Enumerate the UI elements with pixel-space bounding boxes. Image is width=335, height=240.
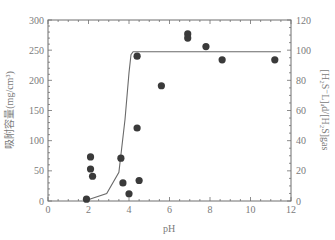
y2-tick-label: 60 (296, 105, 306, 116)
y2-tick-label: 0 (296, 196, 301, 207)
plot-frame (48, 20, 291, 201)
chart: 0246810120501001502002503000204060801001… (0, 0, 335, 240)
y-tick-label: 50 (34, 165, 44, 176)
data-point (184, 35, 191, 42)
x-axis-title: pH (163, 223, 175, 234)
y2-axis-title: [H₂S⁻L]ₐd/[H₂S]gas (320, 70, 331, 151)
x-tick-label: 2 (86, 204, 91, 215)
y2-tick-label: 40 (296, 135, 306, 146)
data-point (125, 190, 132, 197)
data-points (83, 30, 279, 203)
data-point (219, 56, 226, 63)
data-point (271, 56, 278, 63)
model-curve (87, 52, 281, 201)
data-point (158, 82, 165, 89)
data-point (202, 43, 209, 50)
x-tick-label: 6 (167, 204, 172, 215)
data-point (87, 165, 94, 172)
data-point (134, 53, 141, 60)
y-tick-label: 250 (29, 45, 44, 56)
data-point (119, 179, 126, 186)
y2-tick-label: 100 (296, 45, 311, 56)
x-tick-label: 4 (127, 204, 132, 215)
y-axis-title: 吸附容量(mg/cm³) (3, 71, 16, 148)
x-tick-label: 12 (286, 204, 296, 215)
y-tick-label: 200 (29, 75, 44, 86)
data-point (87, 153, 94, 160)
y-tick-label: 0 (39, 196, 44, 207)
data-point (89, 173, 96, 180)
y2-tick-label: 20 (296, 165, 306, 176)
model-line (87, 52, 281, 201)
x-tick-label: 10 (246, 204, 256, 215)
data-point (134, 124, 141, 131)
data-point (136, 177, 143, 184)
data-point (117, 155, 124, 162)
y-tick-label: 300 (29, 15, 44, 26)
plot-axes: 0246810120501001502002503000204060801001… (29, 15, 311, 216)
data-point (83, 196, 90, 203)
y-tick-label: 100 (29, 135, 44, 146)
y-tick-label: 150 (29, 105, 44, 116)
x-tick-label: 8 (208, 204, 213, 215)
y2-tick-label: 120 (296, 15, 311, 26)
y2-tick-label: 80 (296, 75, 306, 86)
x-tick-label: 0 (46, 204, 51, 215)
